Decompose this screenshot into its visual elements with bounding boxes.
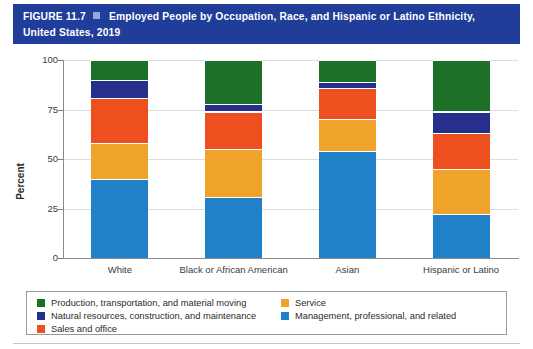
legend-swatch-icon <box>37 299 45 307</box>
bar-segment[interactable] <box>91 143 148 179</box>
bar-segment[interactable] <box>205 149 262 197</box>
bar-segment[interactable] <box>91 80 148 98</box>
y-axis-tick-mark <box>58 60 63 61</box>
legend-item[interactable]: Production, transportation, and material… <box>37 298 246 309</box>
legend-item[interactable]: Management, professional, and related <box>281 311 456 322</box>
bar-segment[interactable] <box>319 151 376 258</box>
legend-item[interactable]: Service <box>281 298 326 309</box>
figure-title-line: FIGURE 11.7Employed People by Occupation… <box>23 9 511 40</box>
y-axis-tick-labels: 0255075100 <box>18 48 58 288</box>
y-axis-tick-mark <box>58 258 63 259</box>
bar-segment[interactable] <box>319 88 376 120</box>
y-axis-tick-label: 100 <box>24 55 58 65</box>
legend-label: Natural resources, construction, and mai… <box>51 311 256 322</box>
y-axis-tick-mark <box>58 209 63 210</box>
legend-label: Sales and office <box>51 324 117 335</box>
chart-plot-area: Percent 0255075100 WhiteBlack or African… <box>0 48 533 288</box>
y-axis-tick-mark <box>58 110 63 111</box>
bottom-divider <box>13 343 520 344</box>
bar-segment[interactable] <box>205 197 262 258</box>
legend-swatch-icon <box>37 312 45 320</box>
y-axis-tick-label: 25 <box>24 204 58 214</box>
legend-item[interactable]: Sales and office <box>37 324 117 335</box>
bar-segment[interactable] <box>91 179 148 258</box>
y-axis-tick-label: 0 <box>24 253 58 263</box>
bar-segment[interactable] <box>433 112 490 134</box>
y-axis-tick-label: 50 <box>24 154 58 164</box>
page-title: Employed People by Occupation, Race, and… <box>23 11 475 38</box>
legend-item[interactable]: Natural resources, construction, and mai… <box>37 311 256 322</box>
bar-segment[interactable] <box>433 133 490 169</box>
legend-label: Management, professional, and related <box>295 311 456 322</box>
x-axis-tick-label: Hispanic or Latino <box>404 264 518 275</box>
bar-segment[interactable] <box>319 82 376 88</box>
figure-container: FIGURE 11.7Employed People by Occupation… <box>0 0 533 349</box>
y-axis-line <box>63 60 64 259</box>
x-axis-tick-label: White <box>63 264 177 275</box>
figure-number: FIGURE 11.7 <box>23 11 86 22</box>
x-axis-line <box>63 258 519 259</box>
legend-label: Service <box>295 298 326 309</box>
bar-segment[interactable] <box>319 60 376 82</box>
chart-legend: Production, transportation, and material… <box>26 291 507 335</box>
legend-swatch-icon <box>281 299 289 307</box>
bar-segment[interactable] <box>319 119 376 151</box>
bar-segment[interactable] <box>433 169 490 215</box>
bar-segment[interactable] <box>433 214 490 258</box>
x-axis-tick-label: Black or African American <box>177 264 291 275</box>
figure-title-banner: FIGURE 11.7Employed People by Occupation… <box>13 4 520 44</box>
bar-segment[interactable] <box>205 104 262 112</box>
bar-segment[interactable] <box>205 60 262 104</box>
legend-swatch-icon <box>37 325 45 333</box>
y-axis-tick-label: 75 <box>24 105 58 115</box>
square-bullet-icon <box>93 12 100 19</box>
bar-segment[interactable] <box>205 112 262 150</box>
y-axis-tick-mark <box>58 159 63 160</box>
bar-segment[interactable] <box>433 60 490 111</box>
bar-segment[interactable] <box>91 98 148 144</box>
bar-segment[interactable] <box>91 60 148 80</box>
x-axis-tick-label: Asian <box>291 264 405 275</box>
legend-swatch-icon <box>281 312 289 320</box>
legend-label: Production, transportation, and material… <box>51 298 246 309</box>
